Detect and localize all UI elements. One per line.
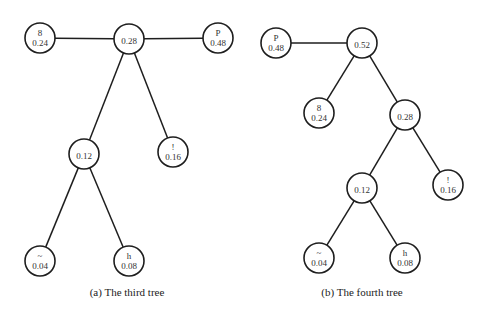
tree-node: ~0.04 <box>25 246 55 276</box>
node-weight: 0.08 <box>397 258 413 268</box>
node-weight: 0.24 <box>311 113 327 123</box>
node-weight: 0.48 <box>210 38 226 48</box>
tree-b-fourth-tree: 0.52P0.4880.240.280.12!0.16~0.04h0.08 (b… <box>261 28 463 299</box>
tree-node: h0.08 <box>390 243 420 273</box>
tree-a-caption: (a) The third tree <box>90 286 165 299</box>
tree-edge <box>327 56 354 100</box>
node-symbol: ~ <box>317 248 322 258</box>
node-symbol: 8 <box>38 28 43 38</box>
huffman-tree-figure: 0.2880.24P0.480.12!0.16~0.04h0.08 (a) Th… <box>0 0 489 313</box>
node-weight: 0.12 <box>76 151 92 161</box>
tree-edge <box>327 201 354 245</box>
node-weight: 0.52 <box>354 40 370 50</box>
tree-node: ~0.04 <box>304 243 334 273</box>
tree-b-nodes: 0.52P0.4880.240.280.12!0.16~0.04h0.08 <box>261 28 463 273</box>
tree-node: !0.16 <box>433 170 463 200</box>
tree-edge <box>134 53 167 138</box>
tree-node: 80.24 <box>304 98 334 128</box>
node-weight: 0.28 <box>121 36 137 46</box>
tree-node: !0.16 <box>158 137 188 167</box>
node-symbol: ! <box>172 142 175 152</box>
tree-node: 0.28 <box>390 100 420 130</box>
tree-edge <box>46 168 79 247</box>
tree-b-edges <box>291 43 440 245</box>
tree-edge <box>413 128 440 172</box>
node-weight: 0.28 <box>397 112 413 122</box>
tree-edge <box>144 38 203 39</box>
node-weight: 0.12 <box>354 185 370 195</box>
tree-b-caption: (b) The fourth tree <box>321 286 402 299</box>
tree-edge <box>370 128 398 175</box>
tree-node: P0.48 <box>261 28 291 58</box>
tree-edge <box>90 168 123 247</box>
node-symbol: ! <box>447 175 450 185</box>
tree-edge <box>370 201 397 245</box>
tree-a-nodes: 0.2880.24P0.480.12!0.16~0.04h0.08 <box>25 23 233 276</box>
tree-node: 0.12 <box>69 139 99 169</box>
node-weight: 0.24 <box>32 38 48 48</box>
node-symbol: 8 <box>317 103 322 113</box>
tree-node: 80.24 <box>25 23 55 53</box>
node-weight: 0.04 <box>311 258 327 268</box>
node-symbol: P <box>273 33 278 43</box>
node-weight: 0.16 <box>165 152 181 162</box>
tree-node: P0.48 <box>203 23 233 53</box>
tree-node: 0.12 <box>347 173 377 203</box>
tree-edge <box>370 56 398 102</box>
node-symbol: ~ <box>38 251 43 261</box>
tree-a-third-tree: 0.2880.24P0.480.12!0.16~0.04h0.08 (a) Th… <box>25 23 233 299</box>
node-symbol: h <box>403 248 408 258</box>
tree-node: h0.08 <box>114 246 144 276</box>
node-weight: 0.16 <box>440 185 456 195</box>
tree-edge <box>55 38 114 39</box>
node-weight: 0.04 <box>32 261 48 271</box>
tree-node: 0.52 <box>347 28 377 58</box>
node-symbol: h <box>127 251 132 261</box>
node-symbol: P <box>215 28 220 38</box>
node-weight: 0.48 <box>268 43 284 53</box>
node-weight: 0.08 <box>121 261 137 271</box>
tree-edge <box>90 53 124 140</box>
tree-node: 0.28 <box>114 24 144 54</box>
